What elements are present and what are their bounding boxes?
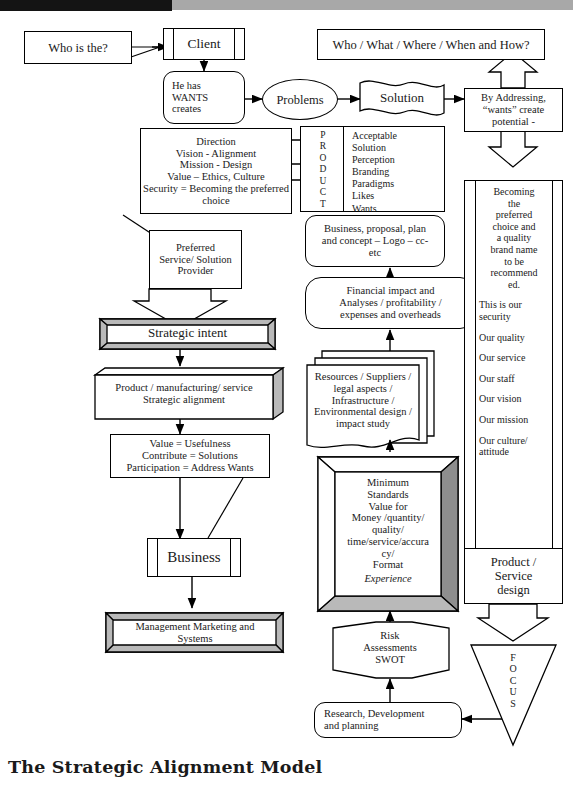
node-research-development: Research, Development and planning [314, 702, 462, 738]
security-column-rail-right [552, 180, 553, 604]
security-item-0: This is our security [479, 299, 549, 322]
security-column-rail-left [475, 180, 476, 604]
node-strategic-intent-label: Strategic intent [107, 326, 268, 341]
page-title: The Strategic Alignment Model [8, 757, 322, 777]
node-problems-label: Problems [276, 93, 323, 107]
diagram-canvas: Who is the? Client He has WANTS creates … [0, 0, 573, 786]
node-preferred-provider: Preferred Service/ Solution Provider [149, 230, 242, 289]
node-solution-label: Solution [360, 91, 444, 106]
node-product-manufacturing-label: Product / manufacturing/ service Strateg… [96, 382, 272, 406]
node-financial-impact: Financial impact and Analyses / profitab… [305, 277, 476, 329]
node-who-what-where-label: Who / What / Where / When and How? [332, 38, 529, 52]
node-who-is-the: Who is the? [24, 31, 132, 64]
frame-left [318, 457, 335, 611]
node-business-label: Business [167, 549, 220, 566]
node-problems: Problems [262, 79, 338, 120]
product-letters: P R O D U C T [308, 130, 338, 210]
frame-right [441, 457, 458, 611]
node-client: Client [163, 28, 245, 60]
cube-side [273, 368, 283, 419]
node-minimum-standards-label: Minimum Standards Value for Money /quant… [334, 477, 442, 571]
security-item-4: Our vision [479, 393, 549, 405]
node-management-marketing-label: Management Marketing and Systems [114, 621, 276, 645]
node-product-service-design-label: Product / Service design [491, 555, 536, 597]
node-value-usefulness-label: Value = Usefulness Contribute = Solution… [126, 438, 253, 473]
callout-tail-who-is-the [131, 47, 160, 57]
node-value-usefulness: Value = Usefulness Contribute = Solution… [110, 434, 270, 478]
node-he-has-wants-label: He has WANTS creates [172, 80, 208, 115]
cube-top [95, 368, 283, 375]
block-arrow-down-to-security [489, 131, 537, 167]
node-client-label: Client [188, 36, 221, 51]
node-he-has-wants: He has WANTS creates [163, 71, 245, 124]
bevel-bottom [100, 343, 275, 349]
node-business-proposal-label: Business, proposal, plan and concept – L… [322, 223, 428, 258]
node-by-addressing: By Addressing, “wants” create potential … [464, 88, 563, 132]
security-block-main: Becoming the preferred choice and a qual… [479, 186, 549, 290]
node-preferred-provider-label: Preferred Service/ Solution Provider [159, 242, 232, 277]
security-item-1: Our quality [479, 332, 549, 344]
node-financial-impact-label: Financial impact and Analyses / profitab… [339, 285, 441, 320]
node-product-service-design: Product / Service design [464, 548, 563, 604]
node-direction: Direction Vision - Alignment Mission - D… [140, 128, 292, 214]
security-column-content: Becoming the preferred choice and a qual… [479, 186, 549, 458]
bevel-left [100, 319, 107, 349]
node-business-proposal: Business, proposal, plan and concept – L… [305, 215, 445, 267]
frame-bottom [318, 596, 458, 611]
security-item-5: Our mission [479, 414, 549, 426]
security-item-3: Our staff [479, 373, 549, 385]
block-arrow-down-to-focus [478, 604, 548, 641]
node-who-is-the-label: Who is the? [48, 41, 108, 55]
node-resources-label: Resources / Suppliers / legal aspects / … [307, 371, 419, 430]
node-by-addressing-label: By Addressing, “wants” create potential … [481, 92, 546, 127]
product-box-divider [343, 126, 344, 212]
product-items: Acceptable Solution Perception Branding … [352, 130, 440, 215]
focus-letters: F O C U S [489, 652, 537, 709]
node-who-what-where: Who / What / Where / When and How? [317, 29, 545, 60]
frame-top [318, 457, 458, 472]
node-risk-assessments-label: Risk Assessments SWOT [340, 630, 440, 665]
node-direction-label: Direction Vision - Alignment Mission - D… [143, 136, 289, 207]
tail-value-to-business [208, 478, 243, 538]
node-minimum-standards-italic: Experience [334, 573, 442, 585]
security-item-6: Our culture/ attitude [479, 435, 549, 458]
node-research-development-label: Research, Development and planning [324, 708, 424, 732]
node-business: Business [147, 538, 241, 577]
security-item-2: Our service [479, 352, 549, 364]
